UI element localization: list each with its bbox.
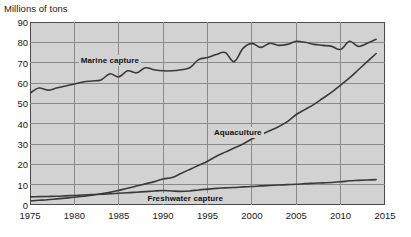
x-tick-label: 1995 xyxy=(197,210,218,221)
y-tick-label: 40 xyxy=(2,118,28,129)
vertical-gridlines xyxy=(74,22,340,205)
series-label-1: Aquaculture xyxy=(212,127,264,138)
y-tick-label: 20 xyxy=(2,159,28,170)
y-tick-label: 80 xyxy=(2,37,28,48)
y-tick-label: 60 xyxy=(2,78,28,89)
series-line-0 xyxy=(30,39,376,93)
series-line-1 xyxy=(30,54,376,201)
plot-area: Marine captureAquacultureFreshwater capt… xyxy=(30,22,385,205)
x-tick-label: 2010 xyxy=(330,210,351,221)
chart-container: Millions of tons 0102030405060708090 Mar… xyxy=(0,0,411,237)
y-tick-label: 0 xyxy=(2,200,28,211)
y-axis-title: Millions of tons xyxy=(4,3,68,14)
x-tick-label: 2015 xyxy=(374,210,395,221)
series-label-2: Freshwater capture xyxy=(145,193,225,204)
x-axis-tick-labels: 197519801985199019952000200520102015 xyxy=(30,210,385,226)
x-tick-label: 1990 xyxy=(153,210,174,221)
x-tick-label: 1980 xyxy=(64,210,85,221)
y-tick-label: 10 xyxy=(2,179,28,190)
y-tick-label: 50 xyxy=(2,98,28,109)
plot-svg xyxy=(30,22,385,205)
y-axis-tick-labels: 0102030405060708090 xyxy=(0,22,28,205)
y-tick-label: 30 xyxy=(2,139,28,150)
y-tick-label: 90 xyxy=(2,17,28,28)
series-label-0: Marine capture xyxy=(79,55,141,66)
y-tick-label: 70 xyxy=(2,57,28,68)
x-tick-label: 1985 xyxy=(108,210,129,221)
x-tick-label: 1975 xyxy=(19,210,40,221)
x-tick-label: 2005 xyxy=(286,210,307,221)
x-tick-label: 2000 xyxy=(241,210,262,221)
